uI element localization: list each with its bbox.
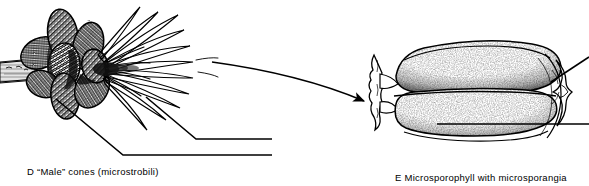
upper-microsporangium: [396, 41, 561, 95]
caption-panel-e: E Microsporophyll with microsporangia: [395, 172, 567, 183]
microsporophyll: [369, 41, 572, 141]
botanical-figure: D “Male” cones (microstrobili) E Microsp…: [0, 0, 589, 186]
caption-panel-d: D “Male” cones (microstrobili): [27, 166, 159, 177]
left-stalk-scale: [369, 55, 398, 130]
lower-microsporangium: [395, 88, 557, 141]
panel-e-illustration: [0, 0, 589, 186]
